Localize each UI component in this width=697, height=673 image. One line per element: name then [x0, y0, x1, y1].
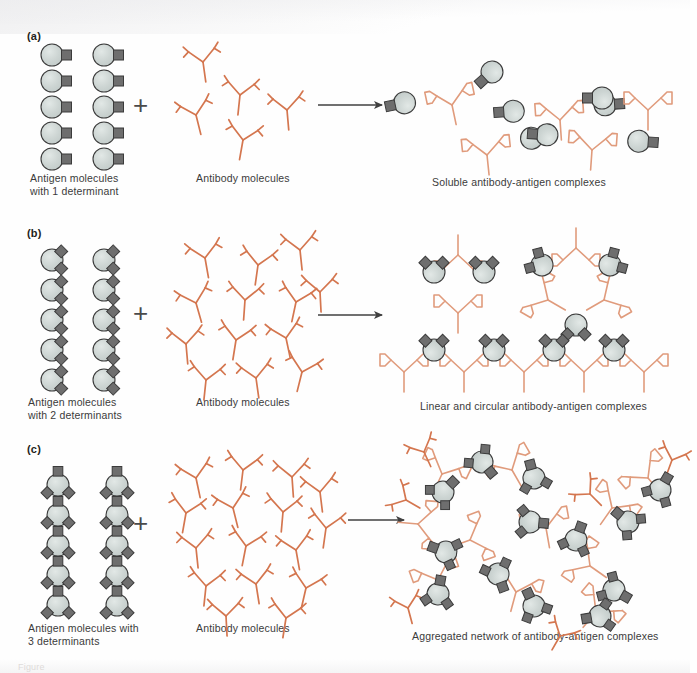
antibody-cluster-a: [174, 42, 307, 163]
linear-complex-b: [380, 334, 668, 392]
circular-complex-large-b: [520, 228, 631, 341]
circular-complex-small-b: [419, 235, 499, 333]
panel-c-group: [41, 432, 692, 658]
antigen-stack-b: [41, 245, 120, 395]
antibody-cluster-b: [166, 231, 339, 402]
lattice-satellite: [579, 597, 617, 636]
figure-caption-fragment: Figure: [18, 662, 45, 672]
soluble-complexes-a: [380, 54, 672, 177]
antigen-stack-c: [41, 467, 134, 620]
antibody-cluster-c: [164, 450, 346, 640]
aggregated-network-c: [385, 432, 692, 658]
page-bottom-edge: [0, 659, 690, 673]
panel-b-group: [41, 228, 668, 402]
panel-a-group: [41, 42, 672, 177]
antigen-stack-a: [41, 44, 124, 170]
